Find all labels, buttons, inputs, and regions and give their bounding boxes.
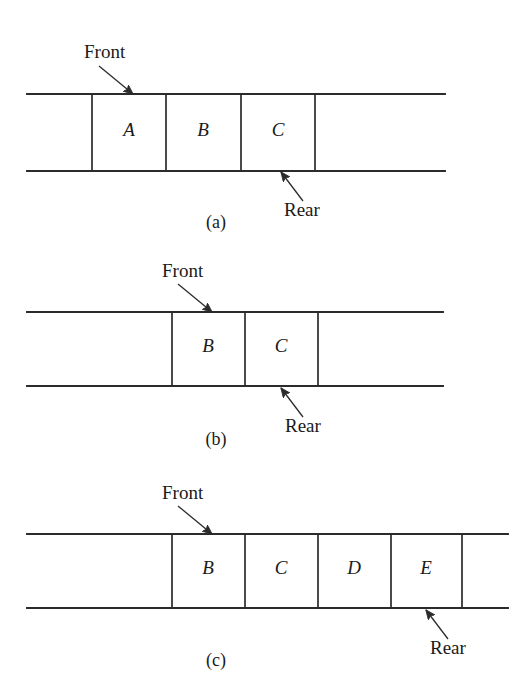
panel-a-rear-arrow-icon: [281, 172, 303, 201]
panel-b-front-label: Front: [162, 260, 204, 281]
panel-c-cell-e: E: [419, 557, 432, 578]
panels-group: ABCFrontRear(a)BCFrontRear(b)BCDEFrontRe…: [27, 41, 508, 671]
panel-a-caption: (a): [206, 212, 226, 233]
panel-a-cell-c: C: [272, 119, 285, 140]
panel-c-cell-c: C: [275, 557, 288, 578]
panel-a: ABCFrontRear(a): [27, 41, 445, 233]
panel-b-caption: (b): [206, 429, 227, 450]
panel-a-cell-a: A: [121, 119, 135, 140]
panel-c-front-label: Front: [162, 482, 204, 503]
panel-c-caption: (c): [206, 650, 226, 671]
panel-b-rear-label: Rear: [285, 415, 322, 436]
panel-b-cell-b: B: [202, 335, 214, 356]
panel-a-front-arrow-icon: [99, 66, 133, 94]
panel-c: BCDEFrontRear(c): [27, 482, 508, 671]
panel-c-cell-b: B: [202, 557, 214, 578]
panel-b-rear-arrow-icon: [281, 388, 303, 417]
panel-b: BCFrontRear(b): [27, 260, 443, 450]
panel-b-cell-c: C: [275, 335, 288, 356]
panel-c-rear-arrow-icon: [426, 610, 448, 639]
panel-c-front-arrow-icon: [178, 506, 212, 534]
queue-diagram-canvas: ABCFrontRear(a)BCFrontRear(b)BCDEFrontRe…: [0, 0, 528, 693]
panel-a-cell-b: B: [197, 119, 209, 140]
panel-b-front-arrow-icon: [178, 284, 212, 312]
panel-a-front-label: Front: [84, 41, 126, 62]
panel-c-rear-label: Rear: [430, 637, 467, 658]
panel-a-rear-label: Rear: [284, 199, 321, 220]
panel-c-cell-d: D: [346, 557, 361, 578]
figure-container: ABCFrontRear(a)BCFrontRear(b)BCDEFrontRe…: [0, 0, 528, 693]
